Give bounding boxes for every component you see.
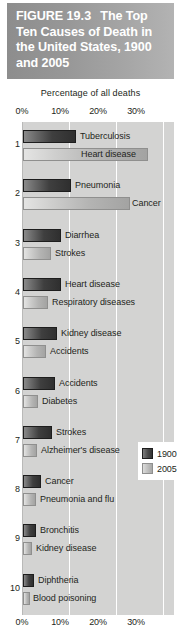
- bar-label-1900: Diphtheria: [38, 574, 79, 587]
- bar-2005: [23, 542, 32, 555]
- legend-label-2005: 2005: [157, 464, 177, 474]
- bar-label-1900: Cancer: [45, 475, 74, 488]
- x-tick-bottom-20: 20%: [81, 617, 115, 627]
- bar-1900: [23, 327, 57, 340]
- bar-1900: [23, 278, 61, 291]
- row-rank: 6: [9, 386, 20, 396]
- bar-label-2005: Cancer: [132, 197, 161, 210]
- bar-label-2005: Strokes: [55, 247, 85, 260]
- bar-label-2005: Pneumonia and flu: [40, 493, 114, 506]
- bar-label-1900: Kidney disease: [61, 327, 121, 340]
- x-tick-bottom-0: 0%: [5, 617, 39, 627]
- bar-2005: [23, 247, 51, 260]
- bar-2005: [23, 444, 37, 457]
- table-row: 4 Heart disease Respiratory diseases: [22, 270, 174, 319]
- bar-1900: [23, 229, 61, 242]
- table-row: 2 Pneumonia Cancer: [22, 171, 174, 220]
- figure-container: FIGURE 19.3The Top Ten Causes of Death i…: [0, 0, 180, 642]
- figure-title-line-3: the United States, 1900: [16, 40, 152, 54]
- bar-label-2005: Accidents: [50, 345, 89, 358]
- legend: 1900 2005: [138, 442, 180, 480]
- bar-1900: [23, 475, 41, 488]
- x-tick-top-0: 0%: [5, 106, 39, 116]
- bar-label-1900: Bronchitis: [40, 524, 79, 537]
- row-rank: 5: [9, 336, 20, 346]
- x-tick-bottom-30: 30%: [119, 617, 153, 627]
- bar-label-2005: Blood poisoning: [33, 592, 96, 605]
- figure-title-text: FIGURE 19.3The Top Ten Causes of Death i…: [16, 9, 172, 71]
- bar-2005: [23, 296, 48, 309]
- x-tick-top-10: 10%: [43, 106, 77, 116]
- x-tick-top-30: 30%: [119, 106, 153, 116]
- x-axis-ticks-top: 0% 10% 20% 30%: [7, 106, 174, 119]
- row-rank: 10: [9, 583, 20, 593]
- figure-label: FIGURE 19.3: [16, 9, 91, 23]
- x-axis-ticks-bottom: 0% 10% 20% 30%: [7, 617, 174, 630]
- bar-label-2005: Kidney disease: [36, 542, 96, 555]
- table-row: 1 Tuberculosis Heart disease: [22, 122, 174, 171]
- row-rank: 3: [9, 238, 20, 248]
- chart: Percentage of all deaths 0% 10% 20% 30% …: [7, 79, 174, 639]
- legend-item-1900: 1900: [142, 446, 180, 461]
- bar-1900: [23, 377, 55, 390]
- bar-label-2005: Diabetes: [42, 395, 77, 408]
- bar-label-1900: Tuberculosis: [80, 130, 130, 143]
- figure-title-line-2: Ten Causes of Death in: [16, 25, 152, 39]
- bar-2005: [23, 395, 38, 408]
- bar-1900: [23, 179, 71, 192]
- bar-2005: [23, 592, 30, 605]
- plot-area: 1 Tuberculosis Heart disease 2 Pneumonia…: [22, 122, 174, 615]
- legend-swatch-icon-1900: [142, 448, 153, 459]
- legend-label-1900: 1900: [157, 449, 177, 459]
- figure-title-banner: FIGURE 19.3The Top Ten Causes of Death i…: [7, 3, 174, 79]
- table-row: 5 Kidney disease Accidents: [22, 319, 174, 368]
- row-rank: 1: [9, 139, 20, 149]
- figure-title-line-4: and 2005: [16, 56, 69, 70]
- figure-number: 19.3: [66, 9, 91, 23]
- table-row: 9 Bronchitis Kidney disease: [22, 516, 174, 565]
- x-tick-bottom-10: 10%: [43, 617, 77, 627]
- bar-label-1900: Accidents: [59, 377, 98, 390]
- bar-1900: [23, 130, 76, 143]
- bar-1900: [23, 524, 36, 537]
- legend-item-2005: 2005: [142, 461, 180, 476]
- bar-label-1900: Diarrhea: [65, 229, 99, 242]
- table-row: 3 Diarrhea Strokes: [22, 221, 174, 270]
- bar-1900: [23, 574, 34, 587]
- figure-label-word: FIGURE: [16, 9, 63, 23]
- row-rank: 7: [9, 435, 20, 445]
- row-rank: 2: [9, 188, 20, 198]
- x-axis-title: Percentage of all deaths: [7, 88, 174, 98]
- table-row: 6 Accidents Diabetes: [22, 369, 174, 418]
- bar-2005: [23, 197, 130, 210]
- bar-label-2005: Alzheimer's disease: [41, 444, 120, 457]
- bar-label-1900: Pneumonia: [75, 179, 120, 192]
- bar-label-1900: Heart disease: [65, 278, 120, 291]
- bar-label-1900: Strokes: [56, 426, 86, 439]
- row-rank: 9: [9, 533, 20, 543]
- table-row: 10 Diphtheria Blood poisoning: [22, 566, 174, 615]
- bar-2005: [23, 493, 36, 506]
- bar-1900: [23, 426, 52, 439]
- bar-label-2005: Respiratory diseases: [52, 296, 135, 309]
- legend-swatch-icon-2005: [142, 463, 153, 474]
- row-rank: 8: [9, 484, 20, 494]
- x-tick-top-20: 20%: [81, 106, 115, 116]
- bar-2005: [23, 345, 46, 358]
- figure-title-line-1: The Top: [100, 9, 147, 23]
- row-rank: 4: [9, 287, 20, 297]
- bar-label-2005: Heart disease: [81, 148, 136, 161]
